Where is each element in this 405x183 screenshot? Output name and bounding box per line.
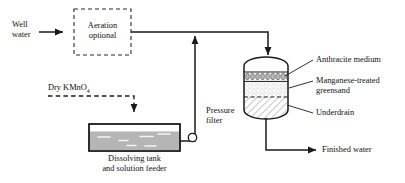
aeration-label-line1: Aeration <box>74 21 131 31</box>
underdrain-label-text: Underdrain <box>316 108 354 118</box>
dry-chemical-subscript: 4 <box>87 88 90 94</box>
dry-chemical-name: Dry KMnO <box>48 83 87 92</box>
dissolving-tank-label: Dissolving tank and solution feeder <box>72 154 197 173</box>
well-water-label-line2: water <box>12 30 31 40</box>
greensand-label-line1: Manganese-treated <box>316 76 380 86</box>
finished-water-label-text: Finished water <box>322 145 372 155</box>
aeration-label: Aeration optional <box>74 21 131 40</box>
pressure-filter-label: Pressure filter <box>206 106 234 125</box>
aeration-label-line2: optional <box>74 31 131 41</box>
feed-pump-symbol <box>188 133 196 141</box>
pressure-filter-label-line1: Pressure <box>206 106 234 116</box>
greensand-label: Manganese-treated greensand <box>316 76 380 95</box>
dissolving-tank-label-line1: Dissolving tank <box>72 154 197 164</box>
greensand-layer <box>243 81 289 97</box>
underdrain-layer <box>243 97 289 121</box>
pressure-filter-vessel <box>243 57 289 121</box>
greensand-label-line2: greensand <box>316 86 380 96</box>
anthracite-medium-label: Anthracite medium <box>316 55 381 65</box>
media-leader-lines <box>285 60 313 113</box>
anthracite-layer <box>244 72 287 81</box>
main-process-pipe <box>131 32 268 55</box>
well-water-label: Well water <box>12 20 31 39</box>
dissolving-tank-label-line2: and solution feeder <box>72 164 197 174</box>
finished-water-label: Finished water <box>322 145 372 155</box>
dissolving-tank <box>89 124 180 151</box>
dry-chemical-label: Dry KMnO4 <box>48 83 90 96</box>
anthracite-medium-label-text: Anthracite medium <box>316 55 381 65</box>
dry-chemical-feed-line <box>48 96 134 112</box>
process-flow-diagram: Well water Aeration optional Dry KMnO4 D… <box>0 0 405 183</box>
underdrain-label: Underdrain <box>316 108 354 118</box>
well-water-label-line1: Well <box>12 20 31 30</box>
finished-water-outlet <box>266 118 316 150</box>
pressure-filter-label-line2: filter <box>206 116 234 126</box>
solution-feed-line <box>180 36 195 141</box>
